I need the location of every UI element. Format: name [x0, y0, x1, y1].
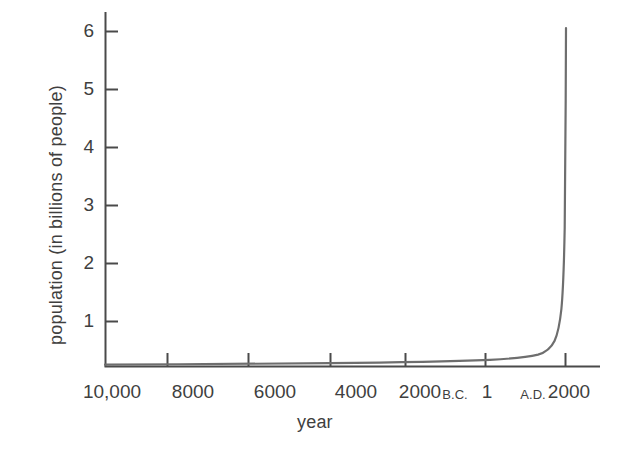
era-label-ad: A.D. [520, 387, 545, 402]
population-curve [105, 28, 566, 365]
era-label-bc: B.C. [442, 387, 467, 402]
x-tick-label-8000bc: 8000 [172, 381, 214, 403]
population-growth-chart: population (in billions of people) year … [0, 0, 624, 463]
y-tick-label-1: 1 [68, 310, 94, 332]
y-tick-label-4: 4 [68, 136, 94, 158]
x-tick-label-10000bc: 10,000 [83, 381, 141, 403]
x-tick-label-6000bc: 6000 [254, 381, 296, 403]
x-axis-title: year [297, 412, 333, 433]
y-tick-label-5: 5 [68, 78, 94, 100]
y-tick-label-6: 6 [68, 20, 94, 42]
y-tick-label-3: 3 [68, 194, 94, 216]
x-tick-label-2000ad: 2000 [548, 381, 590, 403]
x-tick-label-year1: 1 [482, 381, 493, 403]
y-axis-title: population (in billions of people) [46, 85, 67, 345]
x-tick-label-2000bc: 2000 [399, 381, 441, 403]
y-tick-label-2: 2 [68, 252, 94, 274]
x-tick-label-4000bc: 4000 [335, 381, 377, 403]
y-axis-ticks [105, 32, 118, 322]
